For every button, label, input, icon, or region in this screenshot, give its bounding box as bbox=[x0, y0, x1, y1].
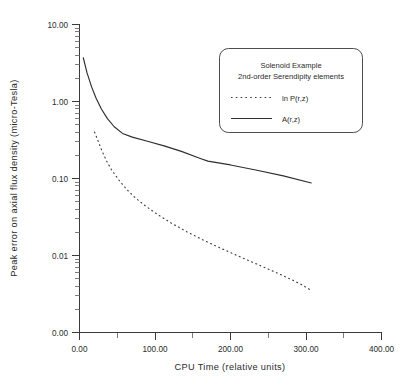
chart-legend: Solenoid Example 2nd-order Serendipity e… bbox=[220, 49, 363, 133]
x-tick-label: 300.00 bbox=[293, 345, 318, 354]
x-axis-title: CPU Time (relative units) bbox=[175, 362, 286, 372]
legend-title-line-2: 2nd-order Serendipity elements bbox=[238, 72, 344, 81]
legend-label-ln-p: ln P(r,z) bbox=[282, 94, 309, 103]
y-tick-label: 10.00 bbox=[48, 21, 69, 30]
legend-label-a: A(r,z) bbox=[282, 115, 301, 124]
chart-figure: 10.001.000.100.010.00 Peak error on axia… bbox=[0, 0, 413, 387]
x-tick-label: 200.00 bbox=[218, 345, 243, 354]
y-tick-label: 1.00 bbox=[52, 98, 68, 107]
y-axis-title: Peak error on axial flux density (micro-… bbox=[9, 79, 19, 276]
x-tick-label: 100.00 bbox=[142, 345, 167, 354]
y-tick-label: 0.00 bbox=[52, 329, 68, 338]
x-tick-label: 0.00 bbox=[72, 345, 88, 354]
legend-title-line-1: Solenoid Example bbox=[260, 61, 321, 70]
y-tick-label: 0.01 bbox=[52, 252, 68, 261]
y-tick-label: 0.10 bbox=[52, 175, 68, 184]
chart-canvas: 10.001.000.100.010.00 Peak error on axia… bbox=[0, 0, 413, 387]
x-tick-label: 400.00 bbox=[369, 345, 394, 354]
